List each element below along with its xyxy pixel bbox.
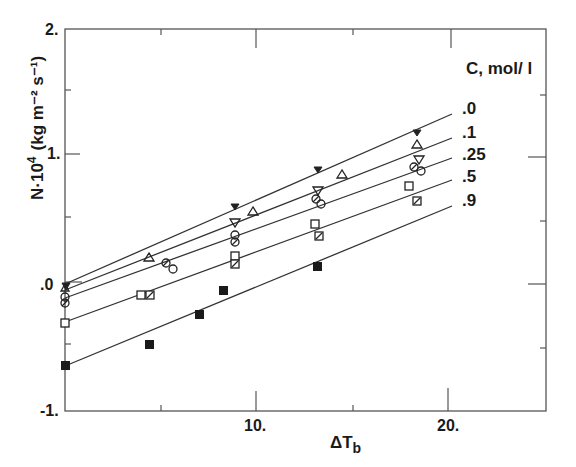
bottom-ticks — [161, 388, 448, 411]
fit-line-0.25 — [65, 158, 452, 298]
legend-label-0.5: .5 — [462, 167, 476, 186]
series-0.9-markers — [61, 262, 322, 370]
right-ticks — [528, 95, 546, 348]
legend-label-0: .0 — [462, 99, 476, 118]
top-ticks — [161, 29, 451, 48]
y-axis-label: N·104(kg m⁻² s⁻¹) — [25, 56, 47, 200]
fit-line-0 — [65, 114, 452, 284]
series-0.1-markers — [61, 140, 424, 291]
legend-label-0.25: .25 — [462, 145, 486, 164]
y-tick-0: .0 — [40, 276, 53, 293]
legend-label-0.1: .1 — [462, 123, 476, 142]
x-tick-10: 10. — [244, 417, 266, 434]
series-0.25-markers — [61, 163, 425, 307]
fit-line-0.1 — [65, 138, 452, 290]
x-tick-20: 20. — [437, 417, 459, 434]
y-tick-1: 1. — [47, 145, 60, 162]
series-0-markers — [62, 130, 421, 290]
fit-lines — [65, 114, 452, 366]
fit-line-0.5 — [65, 180, 452, 322]
fit-line-0.9 — [65, 206, 452, 366]
legend-title: C, mol/ l — [466, 59, 532, 78]
y-tick-2: 2. — [45, 21, 58, 38]
chart-canvas: 2. 1. .0 -1. 10. 20. ΔTb N·104(kg m⁻² s⁻… — [0, 0, 576, 467]
series-0.5-markers — [61, 182, 421, 327]
x-axis-label: ΔTb — [330, 433, 361, 456]
legend-label-0.9: .9 — [462, 191, 476, 210]
plot-frame — [65, 29, 546, 411]
y-tick-neg1: -1. — [40, 402, 59, 419]
